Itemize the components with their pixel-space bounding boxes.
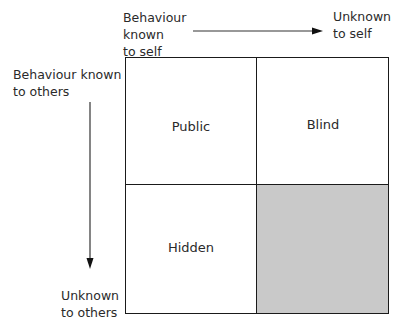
horizontal-arrow-icon [193,28,323,35]
quadrant-label-hidden: Hidden [168,240,214,255]
quadrant-unknown-shaded [257,185,388,313]
horizontal-divider [126,184,388,185]
johari-grid: Public Blind Hidden [125,57,389,314]
quadrant-blind: Blind [257,58,389,184]
vertical-arrow-icon [87,102,94,269]
vertical-divider [256,58,257,313]
quadrant-label-public: Public [172,119,210,134]
quadrant-label-blind: Blind [307,117,340,132]
quadrant-hidden: Hidden [126,185,256,314]
quadrant-public: Public [126,58,256,184]
